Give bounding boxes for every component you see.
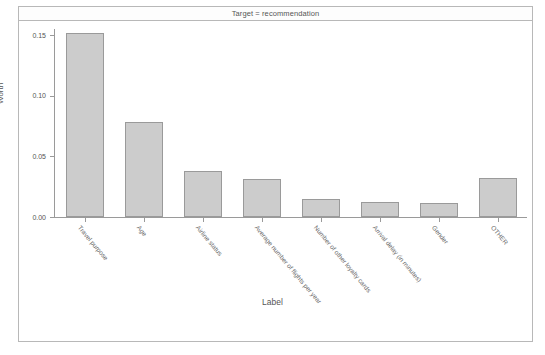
y-axis-tick-label: 0.10 <box>20 92 46 99</box>
y-axis-tick <box>50 156 54 157</box>
chart-title: Target = recommendation <box>232 9 320 18</box>
x-axis-tick <box>144 218 145 222</box>
bar <box>420 203 458 217</box>
x-axis-tick <box>439 218 440 222</box>
y-axis-title: Worth <box>0 83 5 104</box>
bar <box>243 179 281 217</box>
y-axis-tick <box>50 35 54 36</box>
y-axis-tick-label: 0.15 <box>20 32 46 39</box>
x-axis-title: Label <box>0 297 545 307</box>
chart-title-strip: Target = recommendation <box>19 7 532 21</box>
x-axis-tick <box>203 218 204 222</box>
bar-series <box>55 29 527 217</box>
bar <box>125 122 163 217</box>
bar <box>361 202 399 217</box>
x-axis-tick <box>321 218 322 222</box>
bar <box>184 171 222 217</box>
x-axis-tick <box>85 218 86 222</box>
bar <box>479 178 517 217</box>
y-axis-tick-label: 0.00 <box>20 214 46 221</box>
y-axis-tick <box>50 217 54 218</box>
x-axis-line <box>54 217 527 218</box>
x-axis-tick <box>498 218 499 222</box>
y-axis-tick <box>50 96 54 97</box>
bar <box>66 33 104 217</box>
y-axis-tick-label: 0.05 <box>20 153 46 160</box>
x-axis-tick <box>262 218 263 222</box>
x-axis-tick <box>380 218 381 222</box>
bar <box>302 199 340 217</box>
